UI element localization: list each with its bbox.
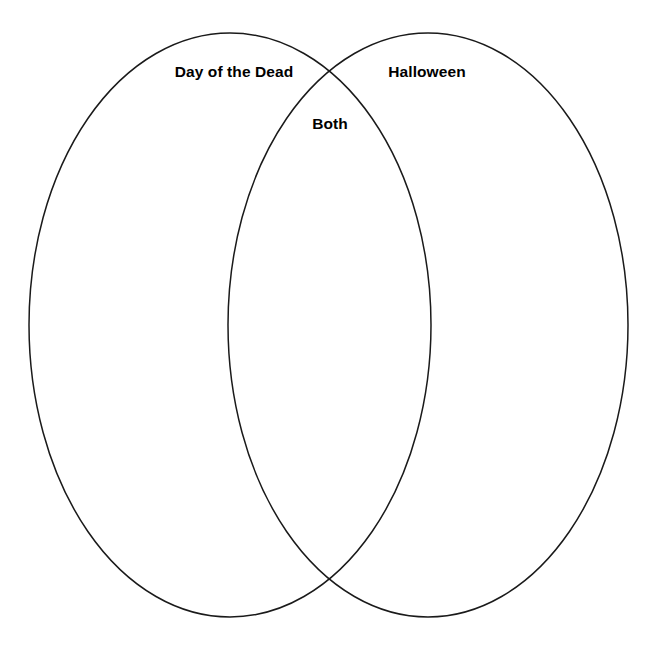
- right-set-ellipse: [228, 33, 628, 617]
- venn-diagram-canvas: Day of the Dead Halloween Both: [0, 0, 660, 648]
- venn-diagram-shapes: [0, 0, 660, 648]
- right-set-label: Halloween: [388, 64, 466, 80]
- left-set-ellipse: [29, 33, 431, 617]
- intersection-label: Both: [312, 116, 348, 132]
- left-set-label: Day of the Dead: [175, 64, 294, 80]
